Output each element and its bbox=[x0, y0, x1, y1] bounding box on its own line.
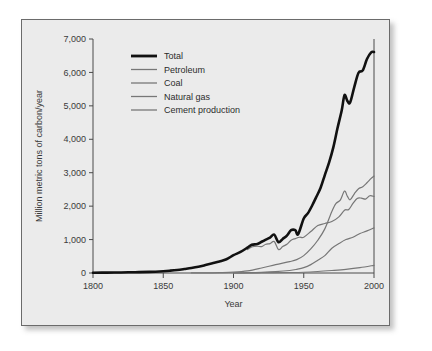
legend-label-total: Total bbox=[164, 51, 183, 61]
legend-group: TotalPetroleumCoalNatural gasCement prod… bbox=[131, 51, 240, 115]
x-axis-title: Year bbox=[224, 299, 242, 309]
y-tick-label: 7,000 bbox=[63, 34, 86, 44]
x-tick-label: 2000 bbox=[364, 281, 384, 291]
series-line-natural-gas bbox=[234, 228, 375, 273]
series-line-petroleum bbox=[191, 176, 374, 273]
legend-label-natural-gas: Natural gas bbox=[164, 92, 211, 102]
labels-group: YearMillion metric tons of carbon/year bbox=[34, 90, 243, 309]
y-tick-label: 6,000 bbox=[63, 68, 86, 78]
legend-label-petroleum: Petroleum bbox=[164, 65, 205, 75]
y-tick-label: 0 bbox=[81, 268, 86, 278]
figure-panel: 01,0002,0003,0004,0005,0006,0007,0001800… bbox=[21, 19, 390, 326]
series-line-total bbox=[93, 52, 374, 273]
legend-label-cement-production: Cement production bbox=[164, 105, 240, 115]
x-tick-label: 1950 bbox=[294, 281, 314, 291]
axes-group: 01,0002,0003,0004,0005,0006,0007,0001800… bbox=[63, 34, 384, 291]
y-tick-label: 5,000 bbox=[63, 101, 86, 111]
x-tick-label: 1800 bbox=[83, 281, 103, 291]
legend-label-coal: Coal bbox=[164, 78, 183, 88]
series-group bbox=[93, 52, 374, 273]
series-line-coal bbox=[248, 196, 374, 250]
y-tick-label: 3,000 bbox=[63, 168, 86, 178]
x-tick-label: 1850 bbox=[153, 281, 173, 291]
y-tick-label: 2,000 bbox=[63, 201, 86, 211]
y-tick-label: 4,000 bbox=[63, 134, 86, 144]
y-tick-label: 1,000 bbox=[63, 235, 86, 245]
y-axis-title: Million metric tons of carbon/year bbox=[34, 90, 44, 222]
emissions-line-chart: 01,0002,0003,0004,0005,0006,0007,0001800… bbox=[22, 20, 391, 327]
x-tick-label: 1900 bbox=[223, 281, 243, 291]
